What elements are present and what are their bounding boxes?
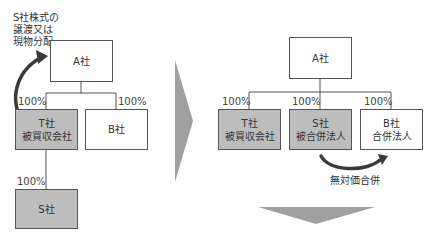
company-t-name: T社 bbox=[38, 117, 54, 130]
company-t-role: 被買収会社 bbox=[22, 130, 72, 143]
before-pct-t: 100% bbox=[18, 96, 47, 108]
company-b-name: B社 bbox=[383, 117, 400, 130]
after-company-t: T社 被買収会社 bbox=[218, 109, 281, 150]
before-company-s: S社 bbox=[15, 189, 78, 229]
before-company-a: A社 bbox=[50, 40, 113, 82]
after-company-a: A社 bbox=[289, 37, 352, 79]
merger-label: 無対価合併 bbox=[330, 175, 380, 187]
company-s-role: 被合併法人 bbox=[296, 130, 346, 143]
before-company-b: B社 bbox=[85, 109, 148, 150]
company-s-label: S社 bbox=[38, 203, 54, 216]
company-b-role: 合併法人 bbox=[372, 130, 412, 143]
company-b-label: B社 bbox=[108, 123, 125, 136]
company-t-role: 被買収会社 bbox=[225, 130, 275, 143]
company-t-name: T社 bbox=[241, 117, 257, 130]
company-s-name: S社 bbox=[312, 117, 328, 130]
company-a-label: A社 bbox=[73, 55, 90, 68]
before-pct-b: 100% bbox=[118, 96, 147, 108]
after-pct-t: 100% bbox=[222, 96, 251, 108]
company-a-label: A社 bbox=[312, 52, 329, 65]
after-pct-s: 100% bbox=[292, 96, 321, 108]
after-company-s: S社 被合併法人 bbox=[289, 109, 352, 150]
before-company-t: T社 被買収会社 bbox=[15, 109, 78, 150]
after-company-b: B社 合併法人 bbox=[360, 109, 423, 150]
note-line-1: S社株式の bbox=[13, 12, 59, 24]
note-line-2: 譲渡又は bbox=[13, 24, 59, 36]
before-pct-s: 100% bbox=[17, 176, 46, 188]
after-pct-b: 100% bbox=[364, 96, 393, 108]
